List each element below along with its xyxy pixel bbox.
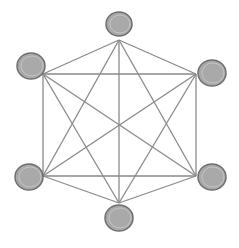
edge-top-upper-left — [43, 40, 119, 74]
node-lower-right — [198, 164, 226, 190]
node-upper-right — [198, 60, 226, 86]
edge-top-lower-left — [43, 40, 119, 176]
node-bottom — [105, 205, 133, 231]
edge-layer — [43, 40, 196, 203]
graph-canvas — [0, 0, 239, 248]
edge-upper-left-bottom — [43, 74, 119, 203]
edge-top-upper-right — [119, 40, 196, 74]
node-top — [106, 12, 132, 36]
complete-graph-diagram — [0, 0, 239, 248]
node-layer — [15, 12, 226, 231]
node-lower-left — [15, 164, 43, 190]
edge-upper-right-bottom — [119, 74, 196, 203]
edge-lower-right-bottom — [119, 176, 196, 203]
node-upper-left — [17, 53, 45, 79]
edge-lower-left-bottom — [43, 176, 119, 203]
edge-top-lower-right — [119, 40, 196, 176]
